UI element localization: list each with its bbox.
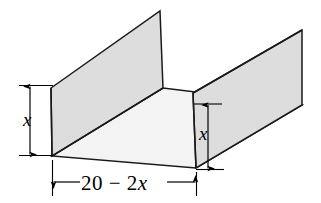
box-diagram-svg [0, 0, 321, 203]
right-flap-panel [193, 30, 302, 168]
dimension-label-right-height: x [199, 124, 207, 143]
dimension-label-left-height: x [23, 110, 31, 129]
figure-container: x x 20 − 2x [0, 0, 321, 203]
left-fold-edge [51, 88, 52, 156]
base-width-variable-part: x [138, 171, 148, 195]
base-width-numeric-part: 20 − 2 [81, 171, 138, 195]
box-solid [51, 11, 302, 168]
dimension-label-base-width: 20 − 2x [81, 173, 148, 194]
